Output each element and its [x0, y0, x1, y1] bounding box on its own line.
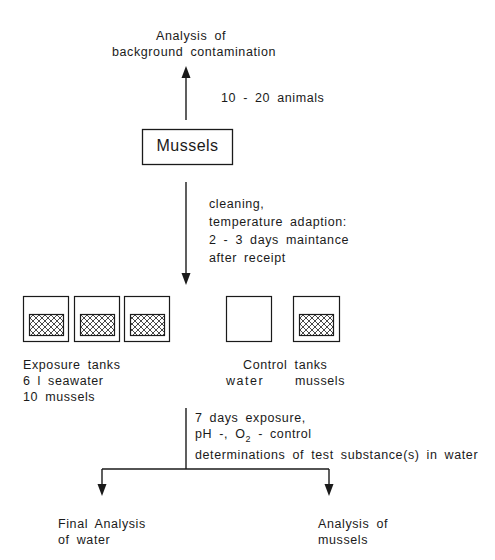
animals-count-label: 10 - 20 animals [221, 90, 324, 106]
exposure-step-line-1: 7 days exposure, [195, 410, 478, 426]
exposure-tanks-line-3: 10 mussels [23, 389, 121, 405]
exposure-tanks-label: Exposure tanks 6 l seawater 10 mussels [23, 357, 121, 405]
arrow-down-to-tanks [182, 182, 191, 285]
mussel-analysis-line-1: Analysis of [318, 516, 388, 532]
water-analysis-outcome: Final Analysis of water [58, 516, 146, 548]
arrow-down-to-water-analysis [98, 469, 107, 496]
exposure-tank-2 [75, 297, 120, 342]
exposure-step-line-2: pH -, O2 - control [195, 426, 478, 447]
mussel-analysis-outcome: Analysis of mussels [318, 516, 388, 548]
background-analysis-line2: background contamination [112, 44, 270, 60]
preparation-line-1: cleaning, [209, 195, 349, 213]
background-analysis-title: Analysis of background contamination [112, 28, 270, 60]
arrow-down-to-mussel-analysis [325, 469, 334, 496]
control-tank-mussels-label: mussels [295, 373, 345, 389]
preparation-notes: cleaning, temperature adaption: 2 - 3 da… [209, 195, 349, 267]
arrow-up-to-background-analysis [182, 66, 191, 120]
exposure-step-line-3: determinations of test substance(s) in w… [195, 447, 478, 463]
ph-o2-prefix: pH -, O [195, 427, 245, 441]
control-tank-mussels [294, 297, 340, 342]
preparation-line-4: after receipt [209, 249, 349, 267]
water-analysis-line-2: of water [58, 532, 146, 548]
preparation-line-3: 2 - 3 days maintance [209, 231, 349, 249]
exposure-tank-3 [125, 297, 170, 342]
control-tank-water [227, 297, 272, 342]
flow-diagram [0, 0, 495, 560]
exposure-step-notes: 7 days exposure, pH -, O2 - control dete… [195, 410, 478, 463]
exposure-tank-1 [24, 297, 69, 342]
mussels-box-label: Mussels [142, 137, 233, 155]
exposure-tanks-line-1: Exposure tanks [23, 357, 121, 373]
control-tank-water-label: water [226, 373, 264, 389]
mussel-analysis-line-2: mussels [318, 532, 388, 548]
exposure-tanks-line-2: 6 l seawater [23, 373, 121, 389]
control-suffix: - control [251, 427, 312, 441]
background-analysis-line1: Analysis of [112, 28, 270, 44]
preparation-line-2: temperature adaption: [209, 213, 349, 231]
control-tanks-title: Control tanks [243, 357, 327, 373]
water-analysis-line-1: Final Analysis [58, 516, 146, 532]
